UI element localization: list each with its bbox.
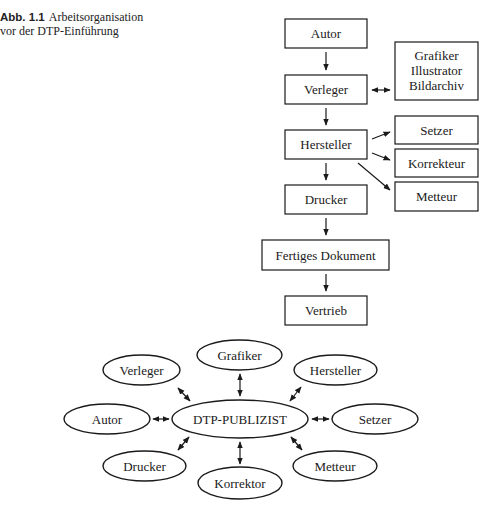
svg-text:Setzer: Setzer — [420, 123, 453, 138]
svg-text:Bildarchiv: Bildarchiv — [409, 78, 464, 93]
hub-node-setzer: Setzer — [332, 404, 418, 434]
svg-text:Hersteller: Hersteller — [300, 137, 352, 152]
svg-text:Verleger: Verleger — [119, 363, 164, 378]
svg-text:Hersteller: Hersteller — [310, 363, 362, 378]
flow-box-vertrieb: Vertrieb — [285, 296, 367, 325]
hub-center-dtp-publizist: DTP-PUBLIZIST — [172, 400, 308, 438]
flow-box-autor: Autor — [285, 19, 367, 48]
flow-box-grafiker-illustrator-bildarchiv: Grafiker Illustrator Bildarchiv — [395, 42, 478, 100]
svg-text:Autor: Autor — [311, 26, 342, 41]
svg-text:Setzer: Setzer — [359, 412, 392, 427]
svg-text:Drucker: Drucker — [123, 459, 166, 474]
hub-node-metteur: Metteur — [293, 451, 377, 481]
flow-box-setzer: Setzer — [395, 116, 478, 144]
hub-node-grafiker: Grafiker — [197, 340, 282, 370]
svg-text:Fertiges Dokument: Fertiges Dokument — [275, 248, 375, 263]
hub-node-korrektor: Korrektor — [198, 467, 282, 499]
hub-diagram-dtp: DTP-PUBLIZIST Grafiker Verleger Herstell… — [64, 340, 418, 499]
svg-text:Illustrator: Illustrator — [411, 63, 463, 78]
svg-text:Autor: Autor — [92, 412, 123, 427]
svg-text:Grafiker: Grafiker — [414, 48, 459, 63]
svg-text:Metteur: Metteur — [416, 189, 458, 204]
arrow-hub-metteur — [291, 437, 302, 450]
arrow-hub-hersteller — [290, 387, 301, 401]
svg-text:DTP-PUBLIZIST: DTP-PUBLIZIST — [193, 412, 287, 427]
svg-text:Korrekteur: Korrekteur — [408, 156, 466, 171]
hub-node-drucker: Drucker — [103, 451, 186, 481]
svg-text:Korrektor: Korrektor — [214, 476, 266, 491]
flow-box-hersteller: Hersteller — [285, 130, 367, 159]
flowchart-old-workflow: Autor Verleger Grafiker Illustrator Bild… — [262, 19, 478, 325]
hub-node-verleger: Verleger — [103, 355, 180, 385]
svg-text:Metteur: Metteur — [314, 459, 356, 474]
svg-text:Verleger: Verleger — [304, 82, 349, 97]
diagram-canvas: Autor Verleger Grafiker Illustrator Bild… — [0, 0, 490, 513]
hub-node-autor: Autor — [64, 404, 150, 434]
flow-box-korrekteur: Korrekteur — [395, 149, 478, 177]
flow-box-metteur: Metteur — [395, 182, 478, 211]
arrow-hersteller-setzer — [372, 132, 390, 139]
flow-box-drucker: Drucker — [285, 185, 367, 214]
svg-text:Vertrieb: Vertrieb — [305, 303, 347, 318]
svg-text:Drucker: Drucker — [305, 192, 348, 207]
svg-text:Grafiker: Grafiker — [217, 348, 262, 363]
arrow-hub-verleger — [178, 388, 190, 401]
flow-box-fertiges-dokument: Fertiges Dokument — [262, 240, 389, 270]
flow-box-verleger: Verleger — [285, 75, 367, 104]
arrow-hersteller-korrekteur — [372, 153, 390, 160]
arrow-hub-drucker — [178, 437, 189, 450]
hub-node-hersteller: Hersteller — [294, 355, 377, 385]
